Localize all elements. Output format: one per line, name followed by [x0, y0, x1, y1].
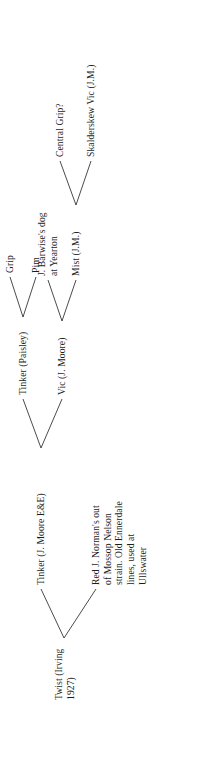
node-twist-irving-1927: Twist (Irving 1927)	[53, 649, 76, 700]
node-grip: Grip	[4, 255, 16, 273]
edge-root-gen1a	[41, 589, 64, 638]
node-vic-j-moore: Vic (J. Moore)	[56, 337, 68, 395]
node-j-barwise-dog-at-yearton: J. Barwise's dog at Yearton	[36, 212, 59, 276]
node-tinker-paisley: Tinker (Paisley)	[17, 332, 29, 395]
node-skalderskew-vic-jm: Skalderskew Vic (J.M.)	[85, 65, 97, 157]
edge-root-gen1b	[64, 589, 96, 638]
node-red-j-norman-note: Red J. Norman's out of Mossop Nelson str…	[90, 501, 149, 585]
edge-gen2a-gen3a	[10, 277, 23, 317]
tree-edges	[0, 0, 224, 757]
edge-gen2b-gen3d	[62, 280, 76, 321]
edge-gen2a-gen3b	[23, 277, 36, 317]
pedigree-figure: Twist (Irving 1927) Tinker (J. Moore E&E…	[0, 0, 224, 757]
edge-gen3d-gen4b	[76, 161, 91, 205]
edge-gen1a-gen2a	[23, 399, 41, 448]
node-tinker-j-moore-ee: Tinker (J. Moore E&E)	[35, 493, 47, 585]
edge-gen1a-gen2b	[41, 399, 62, 448]
edge-gen2b-gen3c	[48, 280, 62, 321]
tree-canvas: Twist (Irving 1927) Tinker (J. Moore E&E…	[0, 0, 224, 757]
node-mist-jm: Mist (J.M.)	[70, 232, 82, 277]
node-central-grip: Central Grip?	[54, 103, 66, 157]
edge-gen3d-gen4a	[60, 161, 76, 205]
